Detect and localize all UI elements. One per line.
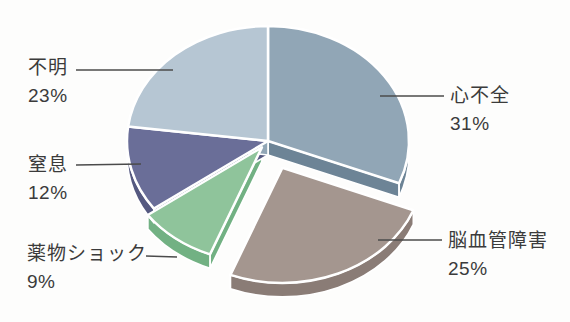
slice-label-yakubutsu: 薬物ショック 9% [27, 240, 147, 296]
leader-line [76, 164, 141, 165]
slice-label-shinfuzen: 心不全 31% [450, 82, 510, 138]
pie-chart-figure: 不明 23% 心不全 31% 窒息 12% 薬物ショック 9% 脳血管障害 25… [0, 0, 570, 322]
leader-line [146, 256, 177, 257]
slice-label-fumei: 不明 23% [28, 54, 68, 110]
slice-percent-text: 25% [448, 255, 548, 283]
slice-percent-text: 9% [27, 268, 147, 296]
slice-percent-text: 31% [450, 110, 510, 138]
slice-label-text: 不明 [28, 54, 68, 82]
slice-percent-text: 12% [28, 179, 68, 207]
slice-label-chissoku: 窒息 12% [28, 151, 68, 207]
slice-label-text: 窒息 [28, 151, 68, 179]
slice-label-noukekkan: 脳血管障害 25% [448, 227, 548, 283]
slice-label-text: 薬物ショック [27, 240, 147, 268]
slice-percent-text: 23% [28, 82, 68, 110]
slice-label-text: 脳血管障害 [448, 227, 548, 255]
slice-label-text: 心不全 [450, 82, 510, 110]
pie-slice [128, 26, 268, 141]
